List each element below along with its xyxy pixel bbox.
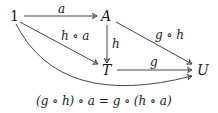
equation-caption: (g ∘ h) ∘ a = g ∘ (h ∘ a)	[36, 95, 172, 107]
label-g: g	[150, 56, 158, 68]
label-a: a	[58, 3, 65, 15]
node-U: U	[197, 63, 209, 77]
node-T: T	[102, 63, 111, 77]
node-A: A	[101, 9, 111, 23]
node-1: 1	[10, 9, 19, 23]
label-h: h	[112, 38, 120, 50]
label-g-circ-h: g ∘ h	[155, 29, 184, 41]
label-h-circ-a: h ∘ a	[61, 30, 89, 42]
